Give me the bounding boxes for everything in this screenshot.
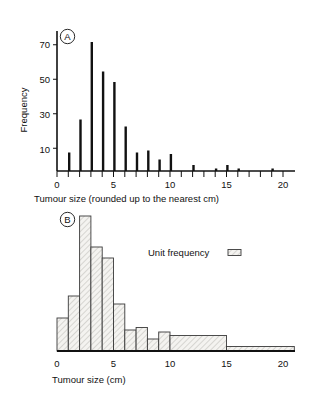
panel-a-ytick-label: 30	[39, 109, 50, 120]
panel-a-xtick-label: 5	[111, 179, 116, 190]
bar	[113, 82, 115, 171]
bar	[170, 154, 172, 171]
legend-label: Unit frequency	[148, 247, 210, 258]
figure-svg: Frequency 70 50 30 10	[0, 0, 312, 405]
bar	[136, 153, 138, 172]
bar	[114, 304, 125, 351]
panel-b-xtick-label: 20	[278, 358, 289, 369]
panel-a-xtick-label: 15	[221, 179, 232, 190]
panel-b-xtick-label: 10	[165, 358, 176, 369]
bar	[125, 330, 136, 351]
legend-swatch	[228, 250, 241, 256]
panel-a-ytick-label: 70	[39, 39, 50, 50]
panel-a-letter: A	[64, 31, 71, 42]
panel-b-xtick-labels: 0 5 10 15 20	[54, 358, 288, 369]
panel-a-ytick-label: 10	[39, 144, 50, 155]
bar	[68, 296, 79, 351]
panel-b-letter: B	[64, 214, 70, 225]
bar	[79, 120, 81, 172]
panel-b-xtick-label: 5	[111, 358, 116, 369]
panel-a-xtick-labels: 0 5 10 15 20	[54, 179, 288, 190]
bar	[80, 216, 91, 351]
bar	[91, 42, 93, 171]
panel-a-x-ticks	[57, 171, 283, 177]
bar	[102, 258, 113, 351]
bar	[147, 339, 158, 351]
panel-b-letter-badge: B	[60, 212, 74, 226]
bar	[226, 165, 228, 171]
panel-a-letter-badge: A	[60, 29, 74, 43]
bar	[170, 336, 227, 352]
panel-b-xlabel: Tumour size (cm)	[52, 374, 126, 385]
panel-a-ylabel: Frequency	[18, 87, 29, 132]
bar	[57, 318, 68, 351]
panel-a-ytick-labels: 70 50 30 10	[39, 39, 50, 155]
bar	[68, 153, 70, 172]
bar	[192, 165, 194, 171]
panel-a-xlabel: Tumour size (rounded up to the nearest c…	[34, 193, 219, 204]
panel-a-xtick-label: 10	[165, 179, 176, 190]
figure-container: Frequency 70 50 30 10	[0, 0, 312, 405]
bar	[271, 169, 273, 172]
panel-b: 0 5 10 15 20 Tumour size (cm) Unit frequ…	[52, 212, 295, 385]
bar	[136, 328, 147, 352]
bar	[102, 72, 104, 172]
panel-a-bars	[68, 42, 274, 171]
panel-a-ytick-label: 50	[39, 74, 50, 85]
panel-b-xtick-label: 0	[54, 358, 59, 369]
bar	[159, 332, 170, 351]
panel-b-legend: Unit frequency	[148, 247, 241, 258]
bar	[238, 169, 240, 172]
bar	[147, 151, 149, 172]
panel-b-bars	[57, 216, 294, 351]
bar	[215, 169, 217, 172]
panel-b-xtick-label: 15	[221, 358, 232, 369]
panel-a-xtick-label: 0	[54, 179, 59, 190]
bar	[158, 160, 160, 172]
panel-a: Frequency 70 50 30 10	[18, 29, 295, 204]
bar	[125, 127, 127, 172]
bar	[91, 247, 102, 351]
panel-a-xtick-label: 20	[278, 179, 289, 190]
